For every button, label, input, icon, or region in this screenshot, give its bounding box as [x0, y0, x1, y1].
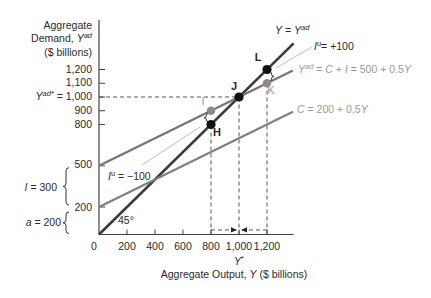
iu-plus-sup: u: [317, 39, 321, 48]
point-label-j: J: [231, 80, 237, 92]
equilibrium-output-label: Y*: [234, 255, 244, 269]
yad-eq-var-y2: Y: [404, 63, 411, 75]
yad-eq-t2: +: [333, 63, 345, 75]
y-tick-1100: 1,100: [66, 76, 92, 88]
x-axis-title-prefix: Aggregate Output,: [161, 268, 250, 280]
equilibrium-output-var: Y: [234, 255, 241, 267]
yad-eq-sup: ad: [305, 62, 313, 71]
equilibrium-output-sup: *: [241, 254, 244, 263]
autonomous-value: = 200: [32, 216, 62, 228]
unplanned-inventory-plus-label: Iu= +100: [314, 40, 354, 54]
leader-line: [142, 127, 200, 165]
y-axis-title-sup: ad: [84, 31, 92, 40]
arrow-right-icon: [231, 227, 237, 232]
point-label-k: K: [267, 84, 274, 96]
y-tick-800: 800: [74, 118, 92, 130]
x-axis-title: Aggregate Output, Y ($ billions): [161, 268, 308, 280]
y-axis-title-prefix: Demand,: [31, 32, 77, 44]
point-j: [234, 92, 243, 101]
x-axis-title-suffix: ($ billions): [256, 268, 307, 280]
y-axis-title-line2: Demand, Yad: [31, 32, 92, 46]
y-tick-500: 500: [74, 158, 92, 170]
x-tick-800: 800: [202, 240, 220, 252]
arrow-left-icon: [241, 227, 247, 232]
investment-value: = 300: [28, 181, 58, 193]
y-axis-title-var: Y: [77, 32, 84, 44]
x-tick-1200: 1,200: [254, 240, 280, 252]
x-tick-1000: 1,000: [226, 240, 252, 252]
iu-minus-sup: u: [111, 169, 115, 178]
line-45-sup: ad: [301, 23, 309, 32]
point-l: [262, 65, 271, 74]
x-tick-200: 200: [118, 240, 136, 252]
autonomous-brace: [63, 212, 69, 234]
unplanned-inventory-minus-label: Iu = −100: [108, 170, 151, 184]
y-tick-1000-sup: ad*: [42, 89, 53, 98]
iu-plus-value: = +100: [321, 40, 354, 52]
yad-eq-var-y: Y: [298, 63, 305, 75]
x-axis-title-var: Y: [249, 268, 256, 280]
y-tick-1000-value: = 1,000: [54, 90, 92, 102]
line-45-eq: =: [282, 24, 294, 36]
investment-brace-label: I = 300: [25, 181, 57, 193]
y-axis-title-line1: Aggregate: [44, 19, 92, 31]
consumption-line: [99, 112, 293, 207]
iu-minus-value: = −100: [115, 170, 151, 182]
c-eq-var-y: Y: [361, 103, 368, 115]
y-tick-1200: 1,200: [66, 63, 92, 75]
x-tick-600: 600: [174, 240, 192, 252]
x-tick-0: 0: [91, 240, 97, 252]
yad-eq-t1: =: [313, 63, 325, 75]
aggregate-demand-chart: Aggregate Demand, Yad ($ billions) 1,200…: [0, 0, 431, 298]
point-label-h: H: [213, 126, 221, 138]
consumption-equation: C = 200 + 0.5Y: [297, 103, 368, 115]
c-eq-t1: = 200 + 0.5: [305, 103, 361, 115]
yad-eq-var-c: C: [325, 63, 333, 75]
aggregate-demand-equation: Yad = C + I = 500 + 0.5Y: [298, 63, 411, 77]
point-label-i: I: [201, 95, 204, 107]
x-tick-400: 400: [146, 240, 164, 252]
c-eq-var-c: C: [297, 103, 305, 115]
y-tick-900: 900: [74, 104, 92, 116]
angle-45-label: 45°: [118, 214, 134, 226]
line-45-label: Y = Yad: [275, 24, 309, 38]
y-tick-1000-equilibrium: Yad* = 1,000: [35, 90, 92, 104]
yad-eq-t3: = 500 + 0.5: [348, 63, 404, 75]
line-45-var-y: Y: [275, 24, 282, 36]
y-tick-200: 200: [74, 201, 92, 213]
investment-brace: [63, 168, 69, 205]
point-label-l: L: [255, 51, 262, 63]
y-axis-title-line3: ($ billions): [44, 46, 92, 58]
autonomous-brace-label: a = 200: [26, 216, 61, 228]
line-45-var-yad: Y: [294, 24, 301, 36]
point-i: [207, 107, 215, 115]
